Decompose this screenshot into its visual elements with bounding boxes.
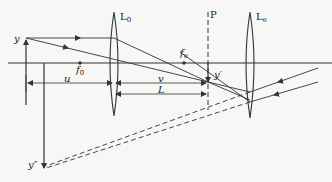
- label-u: u: [64, 74, 70, 84]
- label-L: L: [158, 85, 165, 95]
- label-object-y: y: [14, 34, 20, 44]
- eyepiece-focus-point: [182, 61, 186, 65]
- ray-diagram-svg: [0, 0, 332, 182]
- label-eyepiece-lens: Le: [256, 12, 267, 24]
- label-final-image: y″: [28, 160, 37, 170]
- optical-diagram: y L0 f0 fe P Le y′ y″ u v L: [0, 0, 332, 182]
- label-eyepiece-focus: fe: [180, 48, 188, 60]
- objective-lens: [110, 12, 118, 116]
- label-image-plane: P: [210, 10, 217, 20]
- label-intermediate-image: y′: [214, 70, 222, 80]
- label-objective-lens: L0: [120, 12, 131, 24]
- label-objective-focus: f0: [76, 65, 84, 77]
- label-v: v: [158, 74, 164, 84]
